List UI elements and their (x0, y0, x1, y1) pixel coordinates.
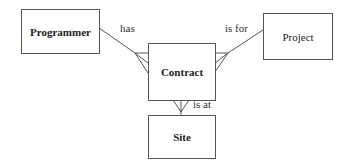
entity-label: Programmer (30, 26, 91, 38)
entity-label: Project (282, 31, 313, 43)
programmer-contract-connector (99, 28, 148, 73)
entity-project: Project (263, 13, 333, 60)
entity-label: Contract (161, 66, 203, 78)
entity-label: Site (173, 131, 191, 143)
entity-contract: Contract (148, 43, 216, 101)
relationship-label-has: has (120, 22, 135, 34)
project-contract-connector (215, 30, 263, 72)
relationship-label-is-at: is at (193, 98, 211, 110)
entity-site: Site (148, 115, 216, 159)
site-contract-connector (173, 100, 189, 115)
relationship-label-is-for: is for (225, 22, 248, 34)
entity-programmer: Programmer (21, 9, 100, 54)
